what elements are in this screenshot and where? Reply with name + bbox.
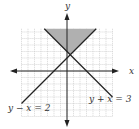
x-axis-arrow-right-icon: [112, 69, 119, 74]
y-axis-arrow-up-icon: [65, 13, 70, 20]
x-axis-arrow-left-icon: [10, 69, 17, 74]
y-axis-arrow-down-icon: [65, 120, 70, 127]
line2-label: y + x = 3: [88, 94, 132, 104]
line1-label: y − x = 2: [7, 103, 51, 113]
graph: y x y − x = 2 y + x = 3: [0, 0, 139, 129]
y-axis-label: y: [64, 1, 71, 11]
x-axis-label: x: [129, 66, 134, 76]
shaded-region: [44, 29, 96, 55]
